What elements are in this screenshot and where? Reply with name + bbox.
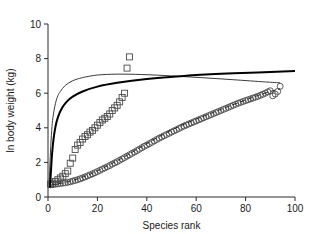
y-axis-title: ln body weight (kg) xyxy=(5,69,16,153)
x-tick-label: 60 xyxy=(191,203,203,214)
y-tick-label: 0 xyxy=(35,192,41,203)
figure-container: 0246810 020406080100 Species rank ln bod… xyxy=(0,0,320,234)
data-point-square xyxy=(127,54,133,60)
x-tick-label: 40 xyxy=(141,203,153,214)
data-point-circle xyxy=(277,83,283,89)
y-tick-label: 4 xyxy=(35,122,41,133)
x-tick-group: 020406080100 xyxy=(45,197,304,214)
x-axis: 020406080100 xyxy=(45,197,304,214)
x-tick-label: 100 xyxy=(287,203,304,214)
data-point-square xyxy=(119,95,125,101)
data-series-layer xyxy=(47,54,295,188)
x-axis-title: Species rank xyxy=(143,220,202,231)
data-point-square xyxy=(122,90,128,96)
y-tick-label: 10 xyxy=(30,19,42,30)
y-tick-label: 2 xyxy=(35,157,41,168)
x-tick-label: 20 xyxy=(92,203,104,214)
data-point-square xyxy=(117,99,123,105)
x-tick-label: 80 xyxy=(240,203,252,214)
y-tick-label: 6 xyxy=(35,88,41,99)
data-point-square xyxy=(72,146,78,152)
y-tick-group: 0246810 xyxy=(30,19,48,203)
x-tick-label: 0 xyxy=(45,203,51,214)
y-tick-label: 8 xyxy=(35,53,41,64)
species-rank-body-weight-chart: 0246810 020406080100 Species rank ln bod… xyxy=(0,0,320,234)
data-point-square xyxy=(124,65,130,71)
y-axis: 0246810 xyxy=(30,19,48,203)
